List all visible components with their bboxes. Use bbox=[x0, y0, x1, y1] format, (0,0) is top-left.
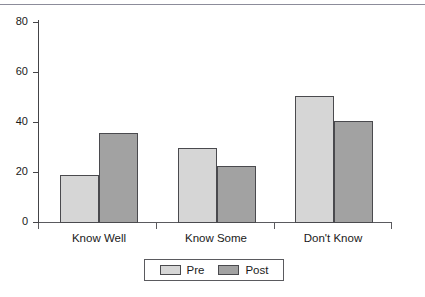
x-axis-tick-1 bbox=[156, 223, 157, 229]
legend-label-pre: Pre bbox=[187, 264, 205, 276]
legend-item-post: Post bbox=[218, 264, 268, 276]
y-axis-tick-label: 80 bbox=[4, 16, 28, 27]
y-axis-label-group-40: 40 bbox=[0, 116, 28, 127]
x-axis-category-label-know-some: Know Some bbox=[157, 231, 275, 245]
x-axis-tick-end bbox=[391, 223, 392, 229]
bar-pre-know-some bbox=[178, 148, 217, 224]
chart-legend: Pre Post bbox=[144, 259, 284, 281]
bar-chart-figure: 80 60 40 20 0 Know Well Know Some Don't … bbox=[0, 0, 425, 297]
bar-post-dont-know bbox=[334, 121, 373, 224]
y-axis-tick-80 bbox=[33, 22, 39, 23]
y-axis-tick-label: 60 bbox=[4, 66, 28, 77]
x-axis-tick-start bbox=[38, 223, 39, 229]
header-divider bbox=[0, 4, 425, 5]
y-axis-tick-20 bbox=[33, 172, 39, 173]
legend-item-pre: Pre bbox=[160, 264, 205, 276]
y-axis-tick-60 bbox=[33, 72, 39, 73]
x-axis-category-label-dont-know: Don't Know bbox=[275, 231, 391, 245]
legend-swatch-icon-post bbox=[218, 265, 239, 275]
y-axis-tick-label: 20 bbox=[4, 166, 28, 177]
x-axis-tick-2 bbox=[274, 223, 275, 229]
legend-swatch-icon-pre bbox=[160, 265, 181, 275]
y-axis-tick-label: 40 bbox=[4, 116, 28, 127]
y-axis-label-group-20: 20 bbox=[0, 166, 28, 177]
x-axis-category-label-know-well: Know Well bbox=[39, 231, 159, 245]
y-axis-label-group-80: 80 bbox=[0, 16, 28, 27]
bar-post-know-some bbox=[217, 166, 256, 224]
bar-pre-dont-know bbox=[295, 96, 334, 224]
bar-pre-know-well bbox=[60, 175, 99, 224]
y-axis-tick-label: 0 bbox=[4, 216, 28, 227]
y-axis-label-group-0: 0 bbox=[0, 216, 28, 227]
y-axis-tick-40 bbox=[33, 122, 39, 123]
y-axis-label-group-60: 60 bbox=[0, 66, 28, 77]
bar-post-know-well bbox=[99, 133, 138, 224]
legend-label-post: Post bbox=[245, 264, 268, 276]
